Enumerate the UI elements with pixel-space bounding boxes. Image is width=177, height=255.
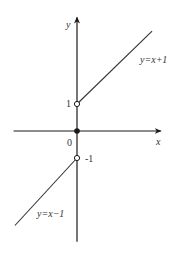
series-label-y-eq-x-minus-1: y=x−1	[36, 208, 64, 219]
y-tick-label-neg1: -1	[85, 153, 93, 164]
y-tick-label-1: 1	[66, 98, 71, 109]
open-endpoint-y-x-1	[74, 155, 79, 160]
x-axis-label: x	[155, 136, 161, 147]
series-line-y-x-1	[77, 31, 152, 104]
series-label-y-eq-x-plus-1: y=x+1	[139, 54, 167, 65]
filled-point-origin	[74, 128, 80, 134]
open-endpoint-y-x-1	[74, 101, 79, 106]
origin-label: 0	[67, 137, 72, 148]
y-axis-label: y	[65, 19, 71, 30]
piecewise-function-graph: y x 0 1 -1 y=x+1 y=x−1	[0, 0, 177, 255]
